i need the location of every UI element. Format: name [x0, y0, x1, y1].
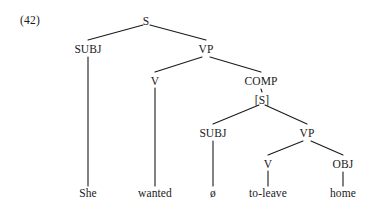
- leaf-null-subject: ø: [210, 188, 216, 200]
- node-vp-embedded: VP: [300, 128, 315, 140]
- tree-edge-s_root-to-vp_matrix: [150, 25, 206, 40]
- node-obj: OBJ: [333, 159, 354, 171]
- node-v-embedded: V: [264, 159, 272, 171]
- tree-edge-vp_embedded-to-v_embedded: [268, 141, 303, 155]
- leaf-wanted: wanted: [138, 188, 172, 200]
- example-number: (42): [20, 15, 40, 27]
- tree-edge-vp_embedded-to-obj: [311, 141, 343, 155]
- node-comp: COMP: [245, 76, 278, 88]
- node-v-matrix: V: [151, 76, 159, 88]
- leaf-home: home: [330, 188, 356, 200]
- tree-edge-s_embedded-to-subj_embedded: [213, 105, 259, 124]
- leaf-she: She: [79, 188, 97, 200]
- tree-branch-lines: [0, 0, 376, 212]
- leaf-to-leave: to-leave: [249, 188, 287, 200]
- node-s-root: S: [143, 16, 150, 28]
- node-s-embedded: [S]: [255, 95, 269, 107]
- node-subj-embedded: SUBJ: [199, 128, 226, 140]
- tree-edge-vp_matrix-to-comp: [210, 57, 261, 72]
- node-subj-matrix: SUBJ: [74, 44, 101, 56]
- node-vp-matrix: VP: [199, 44, 214, 56]
- tree-edge-s_embedded-to-vp_embedded: [265, 105, 307, 124]
- tree-edge-s_root-to-subj_matrix: [88, 25, 143, 40]
- tree-edge-vp_matrix-to-v_matrix: [155, 57, 202, 72]
- tree-edge-comp-to-s_embedded: [261, 89, 262, 92]
- syntax-tree-figure: (42) S SUBJ VP V COMP [S] SUBJ VP V OBJ …: [0, 0, 376, 212]
